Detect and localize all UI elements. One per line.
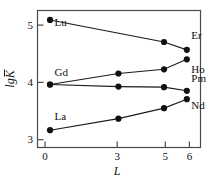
label-er: Er [191,29,202,41]
ytick-label-4: 4 [28,76,34,88]
data-point [184,96,190,102]
data-point [115,116,121,122]
xtick-label-0: 0 [42,150,48,162]
y-axis-label: lgK [3,69,17,87]
x-axis-label: L [113,164,121,178]
data-point [161,39,167,45]
data-point [161,66,167,72]
label-la: La [55,110,67,122]
xtick-label-3: 3 [114,150,120,162]
xtick-label-5: 5 [163,150,169,162]
data-point [115,84,121,90]
data-point [161,84,167,90]
plot-frame [38,11,201,148]
chart-figure: 5 4 3 0 3 5 6 L lgK LuErGdHoPmNdLa [0,0,213,182]
data-point [184,47,190,53]
chart-svg: 5 4 3 0 3 5 6 L lgK LuErGdHoPmNdLa [0,0,213,182]
label-gd: Gd [55,66,69,78]
data-point [115,70,121,76]
label-pm: Pm [191,72,206,84]
ytick-label-3: 3 [28,133,34,145]
y-axis-label-group: lgK [3,69,17,87]
label-lu: Lu [55,16,68,28]
xtick-label-6: 6 [187,150,193,162]
data-point [184,56,190,62]
data-point [47,127,53,133]
data-point [47,17,53,23]
label-nd: Nd [191,99,205,111]
data-point [161,105,167,111]
data-point [184,88,190,94]
ytick-label-5: 5 [28,19,34,31]
data-point [47,81,53,87]
